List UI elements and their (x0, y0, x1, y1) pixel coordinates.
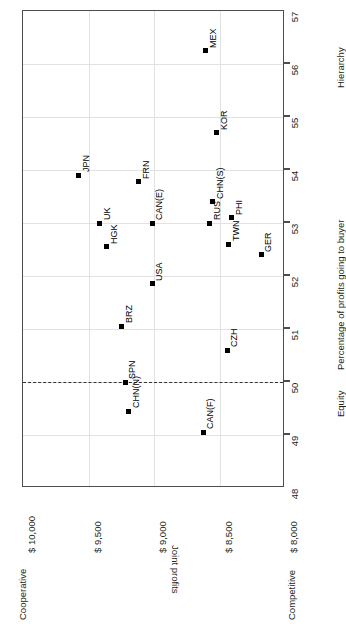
gridline-vertical (220, 11, 221, 486)
data-point-label: GER (264, 232, 273, 252)
data-point-marker (150, 221, 155, 226)
data-point-marker (229, 215, 234, 220)
data-point-marker (119, 324, 124, 329)
joint-profits-axis-tick-label: $ 8,500 (224, 521, 234, 553)
percentage-axis-tick-label: 57 (290, 12, 300, 23)
gridline-horizontal (23, 435, 283, 436)
gridline-horizontal (23, 117, 283, 118)
data-point-marker (226, 242, 231, 247)
data-point-label: FRN (142, 160, 151, 179)
data-point-marker (126, 409, 131, 414)
percentage-axis-tick-label: 50 (290, 383, 300, 394)
gridline-horizontal (23, 276, 283, 277)
percentage-axis-tick-label: 52 (290, 277, 300, 288)
percentage-axis-tick-label: 55 (290, 118, 300, 129)
x-axis-low-end-label: Competitive (287, 570, 297, 620)
data-point-marker (104, 244, 109, 249)
gridline-horizontal (23, 170, 283, 171)
data-point-label: BRZ (125, 305, 134, 323)
data-point-label: CHN(S) (216, 167, 225, 199)
data-point-label: CZH (230, 329, 239, 348)
plot-area: JPNUKHGKFRNCAN(E)USABRZSPNCHN(N)MEXKORCH… (22, 10, 284, 487)
data-point-label: HGK (110, 224, 119, 244)
data-point-marker (97, 221, 102, 226)
data-point-marker (123, 380, 128, 385)
percentage-axis-tick-label: 49 (290, 436, 300, 447)
data-point-marker (150, 281, 155, 286)
data-point-marker (207, 221, 212, 226)
data-point-label: CHN(N) (132, 376, 141, 408)
axis-tick-mark (284, 433, 290, 434)
axis-tick-mark (284, 115, 290, 116)
axis-tick-mark (284, 62, 290, 63)
percentage-axis-tick-label: 48 (290, 489, 300, 500)
percentage-axis-tick-label: 51 (290, 330, 300, 341)
x-axis-high-end-label: Cooperative (18, 569, 28, 620)
axis-tick-mark (284, 327, 290, 328)
joint-profits-axis-tick-label: $ 10,000 (27, 516, 37, 553)
data-point-label: MEX (209, 28, 218, 48)
data-point-marker (136, 179, 141, 184)
data-point-label: RUS (213, 201, 222, 220)
joint-profits-axis-tick-label: $ 9,000 (158, 521, 168, 553)
equity-reference-line (23, 382, 283, 383)
data-point-marker (225, 348, 230, 353)
y-axis-title: Percentage of profits going to buyer (336, 219, 346, 370)
percentage-axis-tick-label: 54 (290, 171, 300, 182)
data-point-label: USA (155, 262, 164, 281)
percentage-axis-tick-label: 53 (290, 224, 300, 235)
axis-tick-mark (284, 168, 290, 169)
data-point-marker (203, 48, 208, 53)
data-point-label: TWN (232, 221, 241, 242)
y-axis-low-end-label: Equity (336, 391, 346, 417)
x-axis-title: Joint profits (170, 545, 180, 594)
data-point-label: CAN(F) (206, 399, 215, 430)
data-point-marker (214, 130, 219, 135)
joint-profits-axis-tick-label: $ 9,500 (93, 521, 103, 553)
data-point-label: CAN(E) (155, 189, 164, 220)
data-point-marker (259, 252, 264, 257)
axis-tick-mark (284, 221, 290, 222)
data-point-marker (201, 430, 206, 435)
data-point-label: JPN (82, 155, 91, 172)
data-point-label: KOR (220, 110, 229, 130)
gridline-horizontal (23, 64, 283, 65)
gridline-vertical (154, 11, 155, 486)
axis-tick-mark (284, 274, 290, 275)
data-point-label: UK (103, 207, 112, 220)
y-axis-high-end-label: Hierarchy (336, 47, 346, 88)
data-point-marker (76, 173, 81, 178)
data-point-label: PHI (235, 200, 244, 215)
gridline-horizontal (23, 329, 283, 330)
gridline-vertical (89, 11, 90, 486)
joint-profits-axis-tick-label: $ 8,000 (289, 521, 299, 553)
axis-tick-mark (284, 380, 290, 381)
percentage-axis-tick-label: 56 (290, 65, 300, 76)
